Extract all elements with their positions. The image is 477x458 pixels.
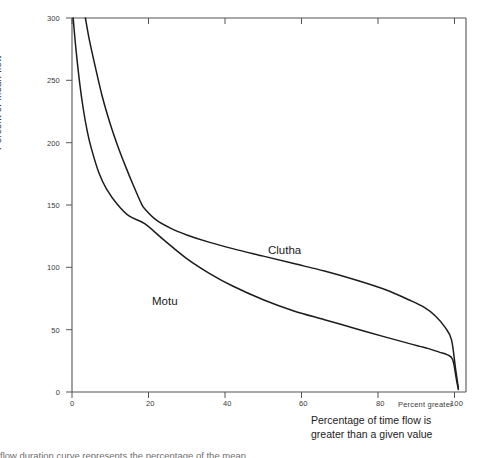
secondary-x-axis-title: Percent greater [398, 400, 453, 409]
y-tick-label-250: 250 [28, 76, 60, 85]
series-label-motu: Motu [152, 295, 178, 307]
y-tick-label-0: 0 [28, 388, 60, 397]
x-axis-ticks-bottom [72, 392, 455, 398]
axis-frame [72, 18, 466, 392]
chart-canvas [0, 0, 477, 458]
y-tick-label-100: 100 [28, 263, 60, 272]
x-tick-label-100: 100 [450, 399, 474, 408]
flow-duration-chart-figure: 300 250 200 150 100 50 0 0 20 40 60 80 1… [0, 0, 477, 458]
y-axis-title: Percent of mean flow [0, 0, 3, 150]
x-tick-label-80: 80 [376, 399, 400, 408]
figure-caption: flow duration curve represents the perce… [0, 449, 477, 458]
series-line-motu [73, 18, 458, 390]
x-axis-title-line1: Percentage of time flow is [311, 414, 477, 428]
y-tick-label-50: 50 [28, 326, 60, 335]
x-tick-label-40: 40 [223, 399, 247, 408]
x-axis-title-line2: greater than a given value [311, 428, 477, 442]
y-axis-ticks [66, 18, 72, 392]
x-axis-title: Percentage of time flow is greater than … [311, 414, 477, 441]
series-line-clutha [85, 18, 458, 388]
y-tick-label-200: 200 [28, 139, 60, 148]
y-tick-label-300: 300 [28, 14, 60, 23]
x-tick-label-20: 20 [146, 399, 170, 408]
x-tick-label-0: 0 [70, 399, 94, 408]
x-axis-ticks-top [72, 18, 455, 24]
series-label-clutha: Clutha [268, 244, 301, 256]
x-tick-label-60: 60 [299, 399, 323, 408]
y-tick-label-150: 150 [28, 201, 60, 210]
